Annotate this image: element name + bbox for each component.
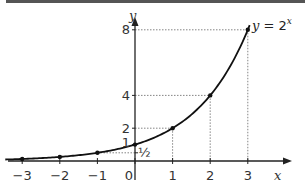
x-tick-label: −1	[88, 168, 107, 183]
x-tick-label: −2	[50, 168, 69, 183]
half-label: ½	[138, 145, 151, 160]
data-point	[208, 93, 212, 97]
y-tick-label: 4	[122, 88, 130, 103]
data-point	[170, 126, 174, 130]
y-tick-label: 1	[122, 135, 130, 150]
y-axis-label: y	[128, 8, 137, 23]
data-point	[246, 28, 250, 32]
data-point	[95, 151, 99, 155]
x-axis-label: x	[274, 168, 282, 183]
guide-lines	[97, 30, 247, 161]
x-tick-label: 3	[244, 168, 252, 183]
y-tick-label: 2	[122, 121, 130, 136]
function-label: y = 2x	[251, 16, 292, 33]
data-point	[133, 142, 137, 146]
exponential-chart: −3−2−101231248½ y x y = 2x	[0, 0, 305, 188]
x-tick-label: 2	[206, 168, 214, 183]
data-point	[58, 155, 62, 159]
x-axis-arrow-icon	[283, 158, 292, 165]
tick-labels: −3−2−101231248½	[13, 22, 252, 183]
y-tick-label: 8	[122, 22, 130, 37]
x-tick-label: 0	[125, 168, 133, 183]
function-label-rest: = 2	[259, 18, 286, 33]
data-point	[20, 157, 24, 161]
x-tick-label: 1	[168, 168, 176, 183]
x-tick-label: −3	[13, 168, 32, 183]
